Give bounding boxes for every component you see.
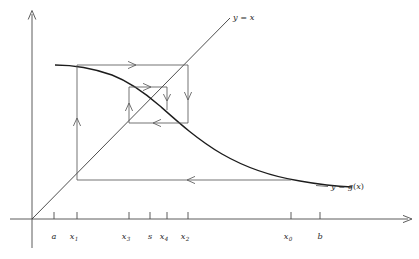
x-tick-labels: a x1 x3 s x4 x2 x0 b xyxy=(52,231,323,242)
tick-label-x1: x1 xyxy=(70,231,79,242)
tick-label-b: b xyxy=(317,231,322,241)
tick-label-a: a xyxy=(52,231,57,241)
plot-canvas: a x1 x3 s x4 x2 x0 b y = x y = g xyxy=(0,0,419,259)
tick-label-x0: x0 xyxy=(284,231,293,242)
cobweb-path-group xyxy=(73,61,291,183)
axes-group xyxy=(10,11,412,249)
tick-label-x2: x2 xyxy=(181,231,190,242)
x-axis-ticks xyxy=(54,212,320,219)
function-curve-label: y = g(x) xyxy=(330,181,364,191)
tick-label-x3: x3 xyxy=(122,231,131,242)
tick-label-x4: x4 xyxy=(160,231,169,242)
function-curve xyxy=(55,65,352,187)
identity-line-label: y = x xyxy=(232,12,255,22)
curve-label-leader xyxy=(316,186,328,187)
cobweb-diagram-figure: a x1 x3 s x4 x2 x0 b y = x y = g xyxy=(0,0,419,259)
identity-line xyxy=(32,18,230,219)
tick-label-s: s xyxy=(148,231,152,241)
